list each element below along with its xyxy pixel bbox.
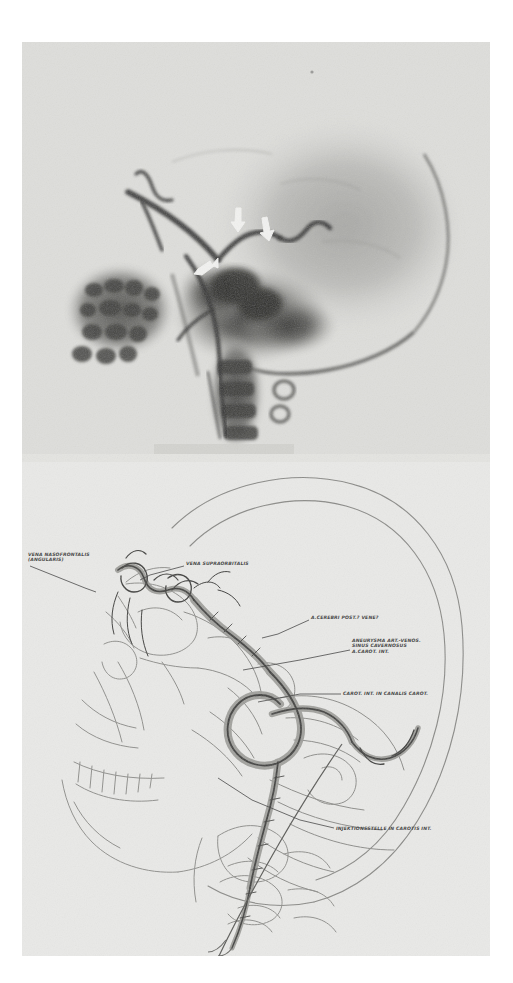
- label-text-injektionsstelle: INJEKTIONSSTELLE IN CAROTIS INT.: [336, 826, 432, 831]
- label-text-carotis-interna-canalis: CAROT. INT. IN CANALIS CAROT.: [343, 691, 428, 696]
- figure-page: VENA NASOFRONTALIS(ANGULARIS)VENA SUPRAO…: [0, 0, 513, 983]
- panel-line-drawing: VENA NASOFRONTALIS(ANGULARIS)VENA SUPRAO…: [22, 462, 490, 956]
- line-drawing-image: VENA NASOFRONTALIS(ANGULARIS)VENA SUPRAO…: [22, 462, 490, 956]
- label-text-vena-supraorbitalis: VENA SUPRAORBITALIS: [186, 561, 249, 566]
- angiogram-image: [22, 42, 490, 462]
- scanned-plate: VENA NASOFRONTALIS(ANGULARIS)VENA SUPRAO…: [22, 42, 490, 956]
- label-text-a-cerebri-post: A.CEREBRI POST.? VENE?: [310, 615, 379, 620]
- panel-angiogram: [22, 42, 490, 462]
